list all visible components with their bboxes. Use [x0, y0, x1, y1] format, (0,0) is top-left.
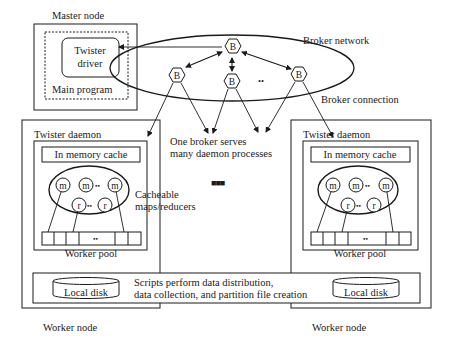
- broker-serves-line1: One broker serves: [170, 136, 246, 147]
- broker-top: B: [225, 39, 241, 53]
- broker-ellipsis: ..: [258, 71, 264, 85]
- twister-driver-line2: driver: [77, 58, 103, 69]
- svg-text:m: m: [352, 181, 360, 191]
- twister-driver-line1: Twister: [74, 45, 106, 56]
- pool-dots: ••: [93, 235, 98, 243]
- broker-glyph: B: [230, 42, 236, 52]
- scripts-line2: data collection, and partition file crea…: [134, 289, 308, 300]
- broker-serves-line2: many daemon processes: [170, 148, 272, 159]
- worker-pool-label: Worker pool: [65, 248, 118, 259]
- reduce-dots: ••: [356, 202, 361, 210]
- pool-dots: ••: [363, 235, 368, 243]
- map-task: m: [79, 178, 93, 192]
- broker-right: B: [291, 67, 307, 81]
- broker-network: Broker network B B B B ..: [110, 35, 400, 159]
- broker-left: B: [169, 68, 185, 82]
- local-disk-label: Local disk: [64, 287, 109, 298]
- map-task: m: [349, 178, 363, 192]
- daemon-label: Twister daemon: [303, 129, 371, 140]
- master-node-title: Master node: [52, 10, 105, 21]
- broker-link: [186, 52, 222, 67]
- reduce-task: r: [341, 198, 355, 212]
- master-node: Master node Main program Twister driver: [34, 10, 137, 110]
- broker-connection-arrow: [181, 83, 208, 133]
- reduce-task: r: [72, 198, 86, 212]
- cache-label: In memory cache: [324, 149, 397, 160]
- cacheable-line1: Cacheable: [135, 189, 179, 200]
- broker-glyph: B: [229, 77, 235, 87]
- map-task: m: [108, 178, 122, 192]
- svg-text:m: m: [382, 181, 390, 191]
- map-task: m: [379, 178, 393, 192]
- cache-label: In memory cache: [55, 149, 128, 160]
- reduce-task: r: [367, 198, 381, 212]
- svg-text:m: m: [82, 181, 90, 191]
- local-disk-left: Local disk: [53, 278, 119, 299]
- main-program-label: Main program: [52, 84, 112, 95]
- broker-link: [242, 52, 291, 69]
- scripts-band: Scripts perform data distribution, data …: [33, 273, 420, 303]
- worker-node-label: Worker node: [43, 322, 98, 333]
- map-dots: ••: [365, 182, 370, 190]
- worker-node-label: Worker node: [312, 322, 367, 333]
- broker-glyph: B: [296, 70, 302, 80]
- map-task: m: [326, 178, 340, 192]
- twister-architecture-diagram: Master node Main program Twister driver …: [0, 0, 454, 346]
- map-dots: ••: [95, 182, 100, 190]
- broker-middle: B: [224, 74, 240, 88]
- svg-text:m: m: [59, 181, 67, 191]
- local-disk-label: Local disk: [344, 287, 389, 298]
- svg-text:m: m: [329, 181, 337, 191]
- local-disk-right: Local disk: [333, 278, 399, 299]
- reduce-dots: ••: [87, 202, 92, 210]
- worker-pool-label: Worker pool: [334, 248, 387, 259]
- broker-connection-arrow: [213, 89, 228, 133]
- daemon-label: Twister daemon: [34, 129, 102, 140]
- broker-glyph: B: [174, 71, 180, 81]
- broker-connection-label: Broker connection: [321, 94, 400, 105]
- svg-text:m: m: [111, 181, 119, 191]
- scripts-line1: Scripts perform data distribution,: [134, 277, 273, 288]
- map-task: m: [56, 178, 70, 192]
- cacheable-line2: maps/reducers: [135, 201, 196, 212]
- middle-ellipsis: ■■■: [211, 178, 225, 188]
- reduce-task: r: [98, 198, 112, 212]
- broker-connection-arrow: [236, 89, 258, 132]
- broker-network-label: Broker network: [303, 35, 370, 46]
